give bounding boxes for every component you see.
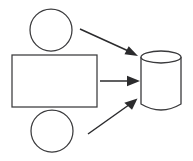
top-circle-node[interactable] bbox=[30, 9, 72, 51]
bottom-circle-shape bbox=[31, 110, 73, 152]
arrow-bottom-line bbox=[88, 105, 130, 135]
top-circle-shape bbox=[30, 9, 72, 51]
arrow-top-line bbox=[80, 29, 130, 52]
arrow-middle-head bbox=[127, 76, 140, 86]
diagram-canvas bbox=[0, 0, 193, 161]
cylinder-node[interactable] bbox=[141, 51, 181, 110]
arrow-bottom-head bbox=[124, 99, 137, 110]
bottom-circle-node[interactable] bbox=[31, 110, 73, 152]
rectangle-node[interactable] bbox=[12, 55, 97, 107]
arrow-top-circle-to-cylinder[interactable] bbox=[80, 29, 138, 56]
diagram-svg bbox=[0, 0, 193, 161]
cylinder-top-ellipse bbox=[141, 51, 181, 63]
arrow-top-head bbox=[125, 46, 139, 56]
rectangle-shape bbox=[12, 55, 97, 107]
cylinder-body bbox=[141, 57, 181, 110]
arrow-rectangle-to-cylinder[interactable] bbox=[100, 76, 140, 86]
